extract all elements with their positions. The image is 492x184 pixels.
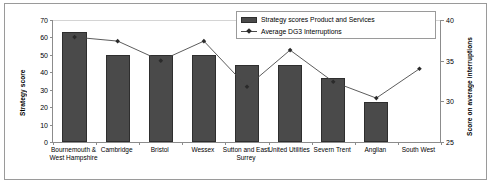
- x-axis-category-label: United Utilities: [265, 146, 314, 154]
- y-axis-right-tick-label: 40: [446, 17, 468, 24]
- line-marker-2: [158, 58, 163, 63]
- x-axis-category-label: Wessex: [178, 146, 227, 154]
- y-axis-right-tick: [441, 61, 444, 62]
- legend-label-line: Average DG3 Interruptions: [261, 28, 342, 35]
- x-axis-category-label: Bournemouth & West Hampshire: [49, 146, 98, 163]
- y-axis-right-tick-label: 35: [446, 57, 468, 64]
- x-axis-tick: [96, 142, 97, 145]
- y-axis-left-tick-label: 30: [26, 86, 48, 93]
- x-axis-tick: [398, 142, 399, 145]
- y-axis-left-tick-label: 10: [26, 121, 48, 128]
- y-axis-left-tick-label: 60: [26, 34, 48, 41]
- legend-entry-line: Average DG3 Interruptions: [241, 28, 342, 35]
- x-axis-tick: [53, 142, 54, 145]
- y-axis-left-tick-label: 0: [26, 139, 48, 146]
- y-axis-right-tick: [441, 20, 444, 21]
- x-axis-tick: [182, 142, 183, 145]
- x-axis-category-label: Sutton and East Surrey: [221, 146, 270, 163]
- x-axis-category-label: Anglian: [351, 146, 400, 154]
- y-axis-right-tick-label: 25: [446, 139, 468, 146]
- line-marker-8: [417, 67, 422, 72]
- legend-entry-bars: Strategy scores Product and Services: [241, 16, 375, 23]
- chart-legend: Strategy scores Product and Services Ave…: [236, 11, 436, 39]
- x-axis-tick: [355, 142, 356, 145]
- x-axis-category-label: South West: [394, 146, 443, 154]
- x-axis-category-label: Bristol: [135, 146, 184, 154]
- y-axis-right-tick-label: 30: [446, 98, 468, 105]
- line-marker-0: [72, 35, 77, 40]
- x-axis-category-label: Severn Trent: [308, 146, 357, 154]
- plot-right-edge: [440, 20, 441, 142]
- legend-label-bars: Strategy scores Product and Services: [261, 16, 375, 23]
- y-axis-left-tick-label: 20: [26, 104, 48, 111]
- x-axis-tick: [139, 142, 140, 145]
- x-axis-tick: [312, 142, 313, 145]
- chart-frame: Strategy score Score on average interrup…: [4, 3, 487, 180]
- y-axis-left-tick-label: 70: [26, 17, 48, 24]
- x-axis-category-label: Cambridge: [92, 146, 141, 154]
- x-axis-tick: [225, 142, 226, 145]
- line-marker-icon: [241, 29, 257, 35]
- y-axis-left-tick-label: 50: [26, 51, 48, 58]
- line-marker-1: [115, 39, 120, 44]
- y-axis-right-title: Score on average interruptions: [466, 32, 473, 136]
- y-axis-right-tick: [441, 101, 444, 102]
- bar-swatch-icon: [241, 17, 257, 23]
- x-axis-tick: [441, 142, 442, 145]
- y-axis-left-title: Strategy score: [19, 46, 26, 116]
- x-axis-tick: [269, 142, 270, 145]
- y-axis-left-tick-label: 40: [26, 69, 48, 76]
